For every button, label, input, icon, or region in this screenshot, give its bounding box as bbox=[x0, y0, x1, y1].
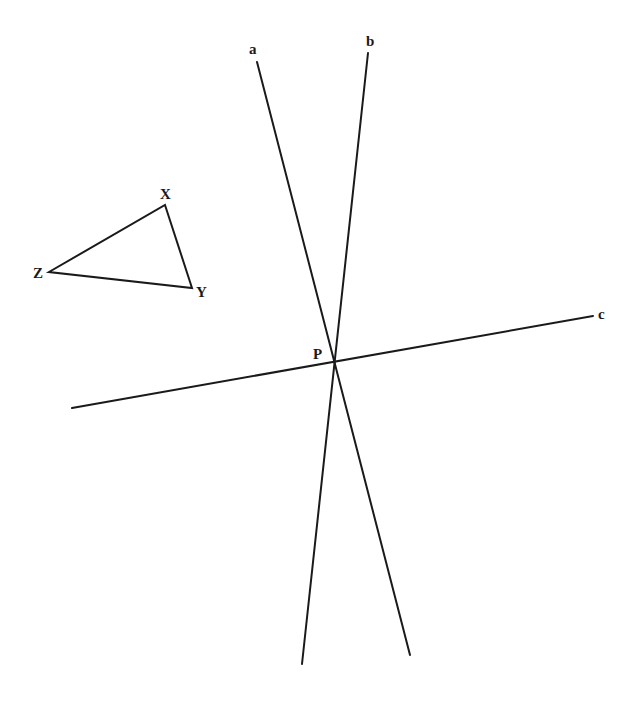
intersection-label-p: P bbox=[313, 346, 322, 362]
line-c bbox=[72, 316, 593, 408]
line-label-c: c bbox=[598, 306, 605, 322]
vertex-label-z: Z bbox=[33, 265, 43, 281]
vertex-label-x: X bbox=[160, 186, 171, 202]
vertex-label-y: Y bbox=[196, 284, 207, 300]
line-label-a: a bbox=[249, 41, 257, 57]
line-b bbox=[302, 53, 368, 664]
geometry-diagram: X Y Z a b c P bbox=[0, 0, 640, 701]
line-a bbox=[257, 62, 410, 655]
line-label-b: b bbox=[366, 33, 374, 49]
triangle-xyz bbox=[49, 205, 192, 288]
